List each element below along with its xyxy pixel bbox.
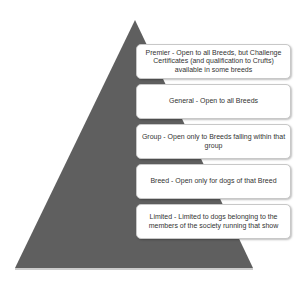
level-group: Group - Open only to Breeds falling with… [136, 124, 291, 159]
level-breed-label: Breed - Open only for dogs of that Breed [150, 177, 276, 186]
level-limited: Limited - Limited to dogs belonging to t… [136, 204, 291, 239]
level-group-label: Group - Open only to Breeds falling with… [141, 133, 286, 150]
level-limited-label: Limited - Limited to dogs belonging to t… [141, 213, 286, 230]
level-general-label: General - Open to all Breeds [169, 97, 258, 106]
level-premier: Premier - Open to all Breeds, but Challe… [136, 44, 291, 79]
level-premier-label: Premier - Open to all Breeds, but Challe… [141, 49, 286, 75]
level-breed: Breed - Open only for dogs of that Breed [136, 164, 291, 199]
level-general: General - Open to all Breeds [136, 84, 291, 119]
